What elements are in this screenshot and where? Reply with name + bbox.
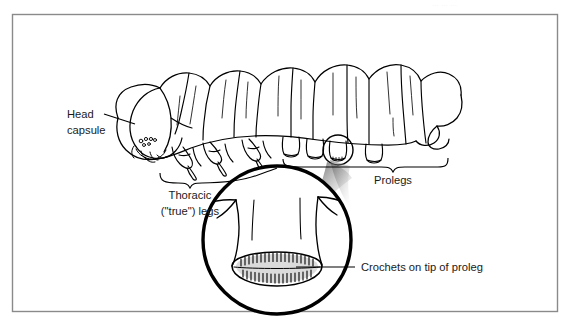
- thoracic-legs-label-line1: Thoracic: [169, 189, 212, 201]
- caterpillar-anatomy-figure: … … …: [0, 0, 570, 326]
- proleg-magnifier-inset: [200, 166, 352, 314]
- crochets-label: Crochets on tip of proleg: [361, 261, 483, 273]
- thoracic-legs-label-line2: ("true") legs: [161, 205, 220, 217]
- figure-root: … … …: [0, 0, 570, 326]
- prolegs-label: Prolegs: [374, 174, 412, 186]
- top-edge-artifact-text: … … …: [432, 0, 457, 7]
- head-capsule-label-line2: capsule: [67, 124, 106, 136]
- head-capsule-label-line1: Head: [67, 108, 94, 120]
